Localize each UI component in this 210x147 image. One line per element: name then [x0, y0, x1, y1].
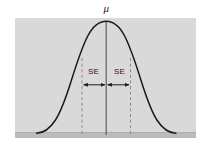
- se-right-label: SE: [114, 67, 125, 76]
- normal-distribution-figure: μ SE SE: [0, 0, 210, 147]
- distribution-chart-svg: μ SE SE: [0, 0, 210, 147]
- plot-panel-background: [15, 18, 196, 138]
- baseline-strip: [15, 133, 196, 139]
- mean-mu-label: μ: [102, 2, 109, 14]
- se-left-label: SE: [88, 67, 99, 76]
